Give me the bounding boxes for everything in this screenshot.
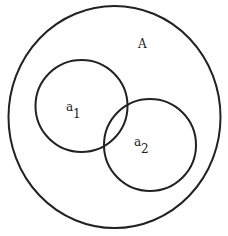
venn-diagram: A a 1 a 2 [0,0,228,236]
subset-a1-subscript: 1 [73,107,81,121]
universe-set-label: A [137,37,147,51]
subset-a2-subscript: 2 [141,142,149,156]
